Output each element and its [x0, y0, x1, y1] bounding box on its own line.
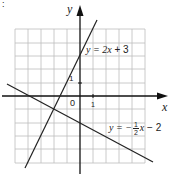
coordinate-graph: : y x 0 1 1 y = 2x + 3 y = −12x − 2	[0, 0, 171, 176]
y-tick-label: 1	[69, 75, 73, 83]
y-axis-arrow-icon	[77, 5, 84, 16]
x-tick-label: 1	[91, 101, 95, 108]
line-y-2x-plus-3	[25, 20, 97, 168]
fraction-one-half: 12	[133, 121, 139, 136]
graph-canvas	[0, 0, 171, 176]
y-axis-label: y	[67, 3, 72, 15]
equation-label-line-1: y = 2x + 3	[86, 45, 129, 55]
origin-label: 0	[70, 99, 75, 108]
equation-label-line-2: y = −12x − 2	[109, 121, 161, 136]
x-axis-label: x	[162, 101, 167, 113]
corner-mark: :	[2, 0, 5, 9]
x-axis-arrow-icon	[157, 93, 168, 100]
x-axis	[2, 93, 168, 100]
eq2-suffix: − 2	[144, 122, 161, 133]
frac-denominator: 2	[133, 129, 139, 136]
frac-numerator: 1	[133, 121, 139, 129]
eq1-suffix: + 3	[112, 44, 129, 55]
eq1-prefix: y = 2	[86, 44, 107, 55]
eq2-prefix: y = −	[109, 122, 132, 133]
